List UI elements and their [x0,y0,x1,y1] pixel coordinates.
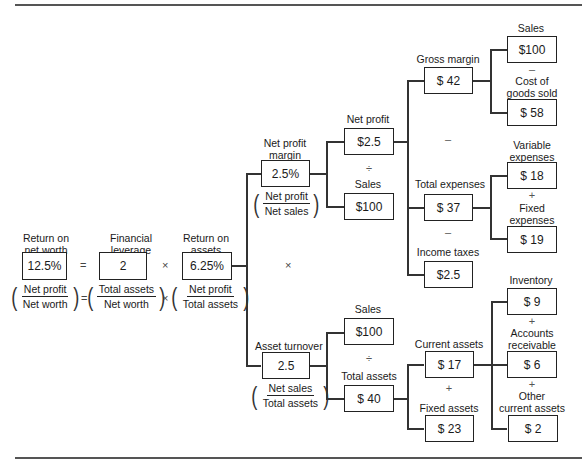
fixed-assets-label: Fixed assets [417,402,481,414]
net-profit-label: Net profit [343,113,393,125]
total-assets-label: Total assets [340,370,398,382]
net-worth-formula: ( Net profit Net worth ) [10,283,80,310]
net-profit-margin-label: Net profit margin [260,137,310,161]
asset-turnover-box: 2.5 [262,352,310,379]
connector [407,207,424,209]
fixed-expenses-label: Fixed expenses [500,202,564,226]
plus-sign: + [525,189,539,201]
connector [407,364,424,366]
connector [490,49,507,51]
variable-expenses-box: $ 18 [507,162,557,189]
connector [246,365,261,367]
connector [326,332,328,399]
connector [407,80,409,275]
asset-turnover-formula: ( Net sales Total assets ) [250,382,331,409]
connector [407,80,424,82]
top-rule [15,4,582,6]
connector [491,428,507,430]
total-expenses-box: $ 37 [424,194,473,221]
connector [473,207,491,209]
net-profit-margin-formula: ( Net profit Net sales ) [252,190,321,217]
connector [490,175,492,239]
divide-sign: ÷ [362,162,376,174]
cogs-label: Cost of goods sold [500,75,564,99]
connector [326,398,344,400]
sales-label-l4: Sales [506,22,556,34]
leverage-formula: ( Total assets Net worth ) [86,283,167,310]
connector [310,173,327,175]
connector [473,80,491,82]
net-profit-margin-box: 2.5% [261,160,310,187]
connector [474,364,492,366]
current-assets-box: $ 17 [425,351,474,378]
connector [491,364,507,366]
connector [394,398,408,400]
financial-leverage-box: 2 [99,252,147,280]
inventory-box: $ 9 [507,288,557,315]
connector [232,265,247,267]
minus-sign: – [441,226,455,238]
sales-box-bottom: $100 [344,318,394,345]
variable-expenses-label: Variable expenses [500,139,564,163]
connector [407,274,424,276]
plus-sign: + [525,315,539,327]
cogs-box: $ 58 [507,99,557,126]
connector [326,206,344,208]
connector [326,332,344,334]
connector [491,301,507,303]
return-on-net-worth-box: 12.5% [22,252,67,280]
minus-sign: – [525,63,539,75]
connector [407,428,424,430]
times-sign: × [162,259,168,271]
formula-times: × [162,292,168,304]
bottom-rule [15,457,582,459]
asset-turnover-label: Asset turnover [255,340,317,352]
connector [394,141,408,143]
connector [246,173,248,366]
divide-sign: ÷ [362,352,376,364]
plus-sign: + [442,382,456,394]
connector [407,364,409,429]
branch-times-sign: × [285,259,291,271]
connector [326,141,344,143]
other-current-assets-label: Other current assets [494,390,570,414]
return-on-assets-box: 6.25% [182,252,232,280]
current-assets-label: Current assets [414,338,484,350]
income-taxes-label: Income taxes [415,246,481,258]
accounts-receivable-box: $ 6 [507,351,557,378]
plus-sign: + [525,378,539,390]
gross-margin-label: Gross margin [415,53,481,65]
accounts-receivable-label: Accounts receivable [500,327,564,351]
connector [490,238,507,240]
sales-label-top: Sales [343,178,393,190]
connector [310,365,327,367]
minus-sign: – [441,133,455,145]
other-current-assets-box: $ 2 [508,415,558,442]
connector [326,141,328,207]
sales-box-top: $100 [344,193,394,220]
net-profit-box: $2.5 [344,128,394,155]
connector [490,49,492,113]
connector [490,175,507,177]
sales-label-bottom: Sales [343,303,393,315]
fixed-expenses-box: $ 19 [507,226,557,253]
gross-margin-box: $ 42 [424,67,473,94]
total-expenses-label: Total expenses [410,178,490,190]
inventory-label: Inventory [503,274,559,286]
equals-sign: = [80,259,86,271]
connector [490,112,507,114]
roa-formula: ( Net profit Total assets ) [170,283,251,310]
sales-box-l4: $100 [507,36,557,63]
connector [246,173,261,175]
fixed-assets-box: $ 23 [425,415,474,442]
total-assets-box: $ 40 [344,385,394,412]
income-taxes-box: $2.5 [424,261,473,288]
